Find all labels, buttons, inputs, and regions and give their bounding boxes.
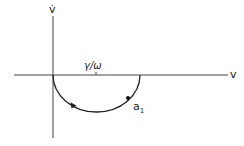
point-a1-label: a1 [133,101,144,115]
point-a1-label-sub: 1 [140,107,144,115]
gamma-omega-label: γ/ω [84,61,102,71]
vdot-axis-label: v̇ [49,4,56,15]
point-a1-label-main: a [133,100,140,113]
phase-plane-diagram: v̇ v γ/ω a1 [0,0,244,146]
point-a1-marker [126,96,130,100]
v-axis-label: v [230,69,237,80]
trajectory-arc [53,75,140,112]
diagram-canvas [0,0,244,146]
